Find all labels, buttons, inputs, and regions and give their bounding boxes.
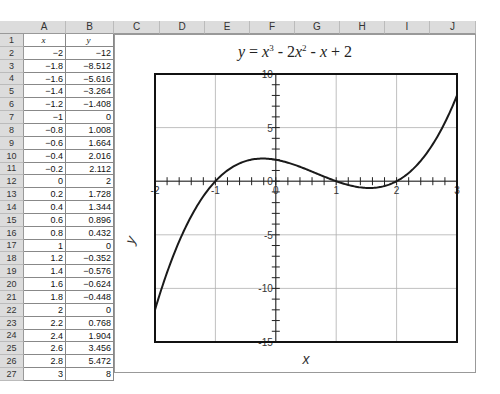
row-header[interactable]: 9: [0, 137, 24, 150]
cell-b4[interactable]: −5.616: [66, 73, 114, 85]
row-header[interactable]: 18: [0, 252, 24, 265]
cell-a1[interactable]: x: [24, 34, 66, 47]
column-header-d[interactable]: D: [160, 21, 205, 34]
cell-b1[interactable]: y: [66, 34, 114, 47]
cell-b19[interactable]: −0.576: [66, 265, 114, 278]
cell-b22[interactable]: 0: [66, 304, 114, 317]
row-header[interactable]: 17: [0, 240, 24, 252]
row-header[interactable]: 15: [0, 214, 24, 227]
row-header[interactable]: 24: [0, 330, 24, 342]
column-header-a[interactable]: A: [23, 21, 66, 34]
cell-b21[interactable]: −0.448: [66, 291, 114, 304]
cell-a11[interactable]: −0.2: [24, 163, 66, 175]
row-header[interactable]: 14: [0, 201, 24, 214]
column-header-j[interactable]: J: [430, 21, 476, 34]
row-header[interactable]: 10: [0, 150, 24, 163]
cell-b11[interactable]: 2.112: [66, 163, 114, 175]
cell-b24[interactable]: 1.904: [66, 330, 114, 342]
cell-a26[interactable]: 2.8: [24, 355, 66, 368]
row-header[interactable]: 23: [0, 317, 24, 330]
y-tick-label: -10: [258, 283, 273, 294]
cell-a12[interactable]: 0: [24, 175, 66, 188]
cell-b26[interactable]: 5.472: [66, 355, 114, 368]
row-header[interactable]: 27: [0, 368, 24, 381]
row-header[interactable]: 5: [0, 85, 24, 98]
cell-a19[interactable]: 1.4: [24, 265, 66, 278]
cell-b7[interactable]: 0: [66, 111, 114, 124]
cell-a10[interactable]: −0.4: [24, 150, 66, 163]
row-header[interactable]: 21: [0, 291, 24, 304]
column-header-b[interactable]: B: [66, 21, 114, 34]
cell-b15[interactable]: 0.896: [66, 214, 114, 227]
cell-a24[interactable]: 2.4: [24, 330, 66, 342]
cell-a15[interactable]: 0.6: [24, 214, 66, 227]
row-header[interactable]: 4: [0, 73, 24, 85]
row-header[interactable]: 7: [0, 111, 24, 124]
cell-a22[interactable]: 2: [24, 304, 66, 317]
cell-a23[interactable]: 2.2: [24, 317, 66, 330]
cell-a14[interactable]: 0.4: [24, 201, 66, 214]
cell-b10[interactable]: 2.016: [66, 150, 114, 163]
cell-b23[interactable]: 0.768: [66, 317, 114, 330]
cell-b12[interactable]: 2: [66, 175, 114, 188]
cell-b16[interactable]: 0.432: [66, 227, 114, 240]
cell-a7[interactable]: −1: [24, 111, 66, 124]
plot-area: -2-101231050-5-10-15xy: [114, 34, 476, 373]
select-all-corner[interactable]: [0, 21, 24, 34]
cell-a20[interactable]: 1.6: [24, 278, 66, 291]
row-header[interactable]: 3: [0, 60, 24, 73]
cell-a4[interactable]: −1.6: [24, 73, 66, 85]
cell-a8[interactable]: −0.8: [24, 124, 66, 137]
cell-b18[interactable]: −0.352: [66, 252, 114, 265]
cell-a5[interactable]: −1.4: [24, 85, 66, 98]
cell-a2[interactable]: −2: [24, 47, 66, 60]
x-tick-label: 1: [333, 185, 339, 196]
x-tick-label: 0: [273, 185, 279, 196]
cell-b3[interactable]: −8.512: [66, 60, 114, 73]
row-header[interactable]: 12: [0, 175, 24, 188]
cell-a25[interactable]: 2.6: [24, 342, 66, 355]
cell-a17[interactable]: 1: [24, 240, 66, 252]
row-header[interactable]: 11: [0, 163, 24, 175]
row-header[interactable]: 13: [0, 188, 24, 201]
column-header-f[interactable]: F: [250, 21, 295, 34]
cell-b2[interactable]: −12: [66, 47, 114, 60]
column-header-e[interactable]: E: [205, 21, 250, 34]
cell-a3[interactable]: −1.8: [24, 60, 66, 73]
row-header[interactable]: 20: [0, 278, 24, 291]
row-header[interactable]: 16: [0, 227, 24, 240]
column-header-c[interactable]: C: [114, 21, 160, 34]
column-header-h[interactable]: H: [340, 21, 385, 34]
row-header[interactable]: 26: [0, 355, 24, 368]
cell-b13[interactable]: 1.728: [66, 188, 114, 201]
row-header[interactable]: 19: [0, 265, 24, 278]
cell-b27[interactable]: 8: [66, 368, 114, 381]
column-header-i[interactable]: I: [385, 21, 430, 34]
row-header[interactable]: 25: [0, 342, 24, 355]
cell-b9[interactable]: 1.664: [66, 137, 114, 150]
cell-a16[interactable]: 0.8: [24, 227, 66, 240]
cell-b8[interactable]: 1.008: [66, 124, 114, 137]
row-header[interactable]: 22: [0, 304, 24, 317]
y-tick-label: 5: [267, 123, 273, 134]
column-header-g[interactable]: G: [295, 21, 340, 34]
cell-b5[interactable]: −3.264: [66, 85, 114, 98]
cell-b14[interactable]: 1.344: [66, 201, 114, 214]
cell-b20[interactable]: −0.624: [66, 278, 114, 291]
cell-a6[interactable]: −1.2: [24, 98, 66, 111]
row-header[interactable]: 1: [0, 34, 24, 47]
x-tick-label: 2: [394, 185, 400, 196]
cell-a9[interactable]: −0.6: [24, 137, 66, 150]
cell-a18[interactable]: 1.2: [24, 252, 66, 265]
cell-b6[interactable]: −1.408: [66, 98, 114, 111]
cell-b25[interactable]: 3.456: [66, 342, 114, 355]
row-header[interactable]: 6: [0, 98, 24, 111]
chart[interactable]: y = x3 - 2x2 - x + 2 -2-101231050-5-10-1…: [114, 34, 476, 373]
cell-a13[interactable]: 0.2: [24, 188, 66, 201]
cell-b17[interactable]: 0: [66, 240, 114, 252]
cell-a21[interactable]: 1.8: [24, 291, 66, 304]
cell-a27[interactable]: 3: [24, 368, 66, 381]
y-tick-label: 0: [267, 176, 273, 187]
row-header[interactable]: 2: [0, 47, 24, 60]
row-header[interactable]: 8: [0, 124, 24, 137]
